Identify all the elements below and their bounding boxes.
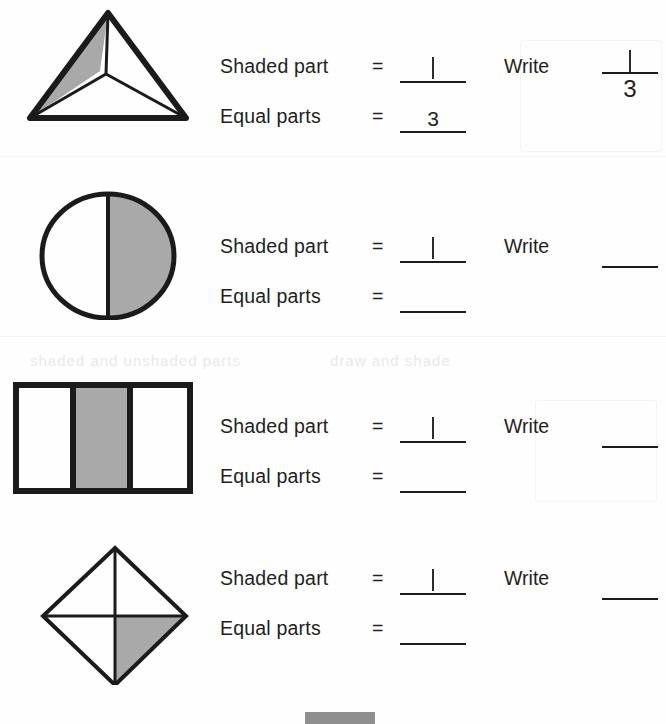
triangle-thirds-icon: [8, 0, 208, 140]
equal-parts-label: Equal parts: [220, 105, 321, 128]
fraction-numerator[interactable]: [597, 236, 663, 266]
equals-sign: =: [372, 465, 383, 488]
equals-sign: =: [372, 235, 383, 258]
write-label: Write: [504, 235, 549, 258]
worksheet-row: Shaded part = Equal parts = 3 Write 3: [0, 0, 666, 180]
shaded-part-answer[interactable]: [400, 235, 466, 259]
rectangle-thirds-icon: [8, 360, 208, 500]
shaded-part-blank[interactable]: [400, 593, 466, 595]
figure-circle-divided-in-halves: [8, 180, 208, 330]
write-label: Write: [504, 55, 549, 78]
write-label: Write: [504, 415, 549, 438]
shaded-part-label: Shaded part: [220, 415, 328, 438]
equals-sign: =: [372, 285, 383, 308]
fraction-numerator[interactable]: [597, 568, 663, 598]
shaded-part-blank[interactable]: [400, 261, 466, 263]
equal-parts-blank[interactable]: [400, 491, 466, 493]
shaded-part-answer[interactable]: [400, 415, 466, 439]
shaded-part-answer[interactable]: [400, 567, 466, 591]
equal-parts-label: Equal parts: [220, 465, 321, 488]
fraction-numerator[interactable]: [597, 42, 663, 72]
equals-sign: =: [372, 567, 383, 590]
fraction-denominator[interactable]: [597, 600, 663, 630]
shaded-part-blank[interactable]: [400, 441, 466, 443]
fraction-answer[interactable]: 3: [597, 42, 663, 104]
worksheet-row: Shaded part = Equal parts = Write: [0, 180, 666, 360]
equals-sign: =: [372, 617, 383, 640]
shaded-part-label: Shaded part: [220, 55, 328, 78]
write-label: Write: [504, 567, 549, 590]
figure-triangle-divided-in-thirds: [8, 0, 208, 150]
shaded-part-blank[interactable]: [400, 81, 466, 83]
fraction-denominator[interactable]: [597, 268, 663, 298]
equal-parts-answer[interactable]: 3: [400, 107, 466, 131]
fraction-denominator[interactable]: 3: [597, 74, 663, 104]
fraction-answer[interactable]: [597, 568, 663, 630]
figure-diamond-divided-in-quarters: [8, 535, 208, 685]
fraction-numerator[interactable]: [597, 416, 663, 446]
equal-parts-label: Equal parts: [220, 617, 321, 640]
bottom-page-marker: [305, 712, 375, 724]
worksheet-row: Shaded part = Equal parts = Write: [0, 360, 666, 540]
shaded-part-label: Shaded part: [220, 567, 328, 590]
fraction-answer[interactable]: [597, 236, 663, 298]
circle-halves-icon: [8, 180, 208, 320]
worksheet-page: shaded and unshaded parts draw and shade…: [0, 0, 666, 724]
equal-parts-label: Equal parts: [220, 285, 321, 308]
equal-parts-blank[interactable]: [400, 311, 466, 313]
worksheet-row: Shaded part = Equal parts = Write: [0, 535, 666, 724]
figure-rectangle-divided-in-thirds: [8, 360, 208, 510]
equals-sign: =: [372, 105, 383, 128]
fraction-denominator[interactable]: [597, 448, 663, 478]
shaded-part-answer[interactable]: [400, 55, 466, 79]
equal-parts-blank[interactable]: [400, 131, 466, 133]
shaded-part-label: Shaded part: [220, 235, 328, 258]
diamond-quarters-icon: [8, 535, 208, 685]
equals-sign: =: [372, 415, 383, 438]
equals-sign: =: [372, 55, 383, 78]
equal-parts-blank[interactable]: [400, 643, 466, 645]
fraction-answer[interactable]: [597, 416, 663, 478]
